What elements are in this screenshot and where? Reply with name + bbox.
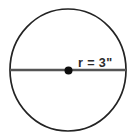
radius-label: r = 3"	[78, 56, 113, 70]
circle-radius-figure: r = 3"	[0, 0, 136, 138]
circle-center-point	[65, 67, 73, 75]
geometry-diagram-canvas: r = 3"	[0, 0, 136, 138]
